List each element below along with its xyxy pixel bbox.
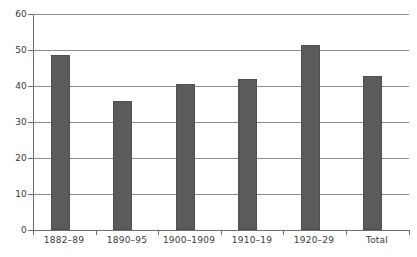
x-axis-label-1910-19: 1910–19 <box>232 236 272 245</box>
y-axis-tick-label-30: 30 <box>3 118 27 127</box>
bar-chart: 60 50 40 30 20 10 0 1882– <box>0 0 417 257</box>
x-axis-label-1900-1909: 1900–1909 <box>163 236 215 245</box>
y-axis-tick-label-0: 0 <box>3 226 27 235</box>
bar-1890-95 <box>113 101 132 230</box>
y-axis-tick-label-60: 60 <box>3 10 27 19</box>
x-axis-tick-6 <box>409 230 410 235</box>
bars-layer <box>33 14 409 230</box>
bar-total <box>363 76 382 230</box>
bar-1910-19 <box>238 79 257 230</box>
x-axis-tick-4 <box>283 230 284 235</box>
bar-1882-89 <box>51 55 70 230</box>
bar-1920-29 <box>301 45 320 230</box>
y-axis-tick-label-10: 10 <box>3 190 27 199</box>
y-axis-tick-labels: 60 50 40 30 20 10 0 <box>0 0 27 257</box>
x-axis-label-total: Total <box>366 236 388 245</box>
x-axis-tick-5 <box>346 230 347 235</box>
y-axis-tick-label-40: 40 <box>3 82 27 91</box>
y-axis-tick-label-50: 50 <box>3 46 27 55</box>
x-axis-tick-3 <box>221 230 222 235</box>
x-axis-label-1890-95: 1890–95 <box>107 236 147 245</box>
x-axis-tick-1 <box>96 230 97 235</box>
x-axis-label-1882-89: 1882–89 <box>44 236 84 245</box>
x-axis-tick-0 <box>33 230 34 235</box>
x-axis-label-1920-29: 1920–29 <box>294 236 334 245</box>
bar-1900-1909 <box>176 84 195 230</box>
y-axis-tick-label-20: 20 <box>3 154 27 163</box>
x-axis-tick-2 <box>158 230 159 235</box>
